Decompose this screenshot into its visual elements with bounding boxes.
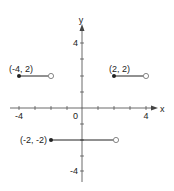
x-tick-label-4: 4: [143, 111, 148, 121]
closed-point-icon: [49, 138, 53, 142]
step-function-graph: y x 4 -4 -4 4 0 (-4, 2) (2, 2) (-2, -2): [0, 0, 174, 191]
y-axis-arrow-icon: [80, 24, 85, 31]
open-point-icon: [113, 137, 118, 142]
y-tick-label-4: 4: [73, 38, 78, 48]
point-label-2: (2, 2): [109, 64, 130, 74]
closed-point-icon: [112, 74, 116, 78]
open-point-icon: [143, 73, 148, 78]
x-axis-label: x: [160, 104, 165, 114]
point-label-3: (-2, -2): [20, 135, 47, 145]
closed-point-icon: [17, 74, 21, 78]
x-axis-arrow-icon: [151, 106, 158, 111]
x-tick-label-neg4: -4: [15, 111, 23, 121]
open-point-icon: [48, 73, 53, 78]
point-label-1: (-4, 2): [9, 64, 33, 74]
y-axis-label: y: [79, 15, 84, 25]
y-tick-label-neg4: -4: [70, 166, 78, 176]
origin-label: 0: [73, 111, 78, 121]
